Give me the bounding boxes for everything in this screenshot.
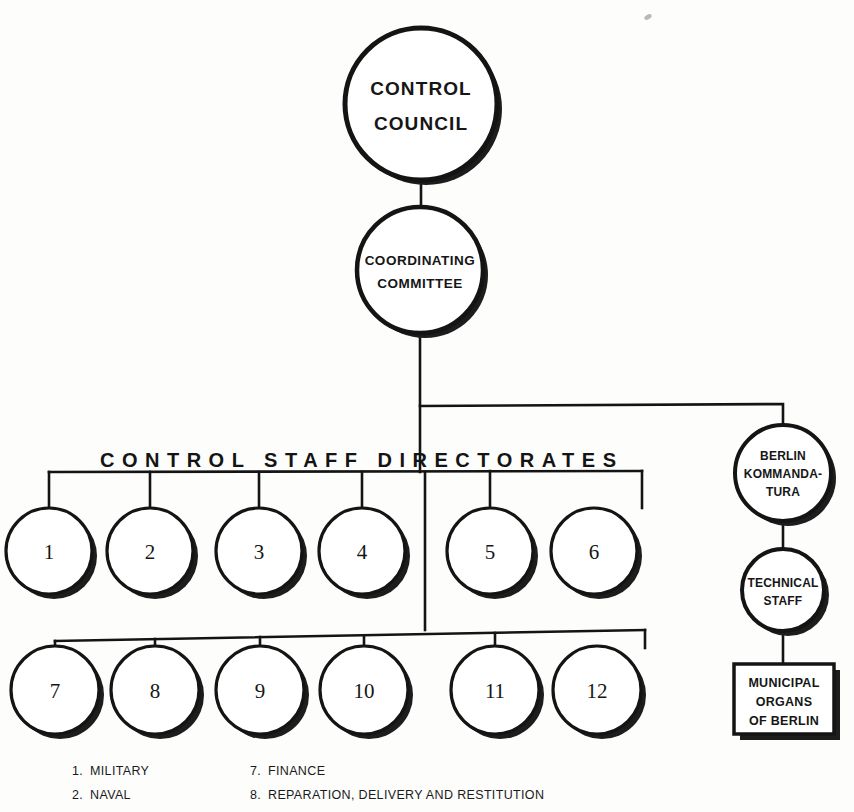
directorate-circle-10[interactable]: 10 (320, 646, 413, 739)
legend-item-7: 7. FINANCE (250, 764, 325, 778)
legend-item-8: 8. REPARATION, DELIVERY AND RESTITUTION (250, 788, 544, 802)
directorates-row-2: 7 8 9 10 11 12 (11, 646, 646, 739)
directorate-circle-9[interactable]: 9 (216, 646, 309, 739)
directorate-2-number: 2 (145, 540, 156, 564)
municipal-organs-label-line-2: ORGANS (756, 695, 813, 709)
directorate-circle-6[interactable]: 6 (551, 508, 642, 599)
legend-item-8-number: 8. (250, 788, 261, 802)
directorate-3-number: 3 (254, 540, 265, 564)
section-heading-control-staff-directorates: CONTROL STAFF DIRECTORATES (100, 449, 624, 471)
berlin-kommandatura-label-line-2: KOMMANDA- (744, 467, 822, 481)
control-council-label-line-1: CONTROL (370, 78, 472, 99)
municipal-organs-label-line-1: MUNICIPAL (748, 676, 819, 690)
legend-item-1: 1. MILITARY (72, 764, 150, 778)
directorate-5-number: 5 (485, 540, 496, 564)
directorate-7-number: 7 (50, 679, 61, 703)
node-berlin-kommandatura[interactable]: BERLIN KOMMANDA- TURA (735, 425, 836, 526)
directorate-circle-8[interactable]: 8 (111, 646, 204, 739)
legend-item-2: 2. NAVAL (72, 788, 131, 802)
node-municipal-organs[interactable]: MUNICIPAL ORGANS OF BERLIN (734, 664, 840, 740)
connector-row1-bus (49, 471, 642, 472)
directorate-6-number: 6 (589, 540, 600, 564)
legend-item-1-number: 1. (72, 764, 83, 778)
technical-staff-circle (742, 549, 824, 631)
legend-item-7-label: FINANCE (268, 764, 325, 778)
directorate-circle-4[interactable]: 4 (319, 508, 410, 599)
coordinating-committee-label-line-1: COORDINATING (365, 253, 476, 268)
municipal-organs-label-line-3: OF BERLIN (749, 714, 819, 728)
legend-item-2-number: 2. (72, 788, 83, 802)
control-council-circle (345, 28, 497, 180)
technical-staff-label-line-1: TECHNICAL (747, 576, 818, 590)
org-chart-canvas: CONTROL COUNCIL COORDINATING COMMITTEE B… (0, 0, 854, 812)
directorate-12-number: 12 (587, 679, 608, 703)
legend-item-8-label: REPARATION, DELIVERY AND RESTITUTION (268, 788, 544, 802)
legend-item-1-label: MILITARY (90, 764, 150, 778)
legend-item-7-number: 7. (250, 764, 261, 778)
berlin-kommandatura-label-line-1: BERLIN (760, 449, 806, 463)
control-council-label-line-2: COUNCIL (374, 113, 468, 134)
directorate-1-number: 1 (44, 540, 55, 564)
node-coordinating-committee[interactable]: COORDINATING COMMITTEE (357, 207, 488, 338)
coordinating-committee-label-line-2: COMMITTEE (377, 276, 463, 291)
directorate-circle-2[interactable]: 2 (107, 508, 198, 599)
legend: 1. MILITARY 2. NAVAL 7. FINANCE 8. REPAR… (72, 764, 544, 802)
node-control-council[interactable]: CONTROL COUNCIL (345, 28, 502, 185)
technical-staff-label-line-2: STAFF (764, 594, 803, 608)
directorate-circle-7[interactable]: 7 (11, 646, 104, 739)
directorate-9-number: 9 (255, 679, 266, 703)
connector-row2-bus (55, 630, 645, 641)
directorate-circle-3[interactable]: 3 (216, 508, 307, 599)
directorate-11-number: 11 (485, 679, 505, 703)
coordinating-committee-circle (357, 207, 483, 333)
directorates-row-1: 1 2 3 4 5 6 (6, 508, 642, 599)
scan-speck (643, 13, 652, 21)
directorate-circle-12[interactable]: 12 (553, 646, 646, 739)
node-technical-staff[interactable]: TECHNICAL STAFF (742, 549, 829, 636)
directorate-circle-5[interactable]: 5 (447, 508, 538, 599)
directorate-circle-1[interactable]: 1 (6, 508, 97, 599)
directorate-circle-11[interactable]: 11 (451, 646, 544, 739)
directorate-10-number: 10 (354, 679, 375, 703)
legend-item-2-label: NAVAL (90, 788, 131, 802)
directorate-4-number: 4 (357, 540, 368, 564)
connector-committee-to-kommandatura (420, 404, 783, 425)
berlin-kommandatura-label-line-3: TURA (766, 485, 800, 499)
directorate-8-number: 8 (150, 679, 161, 703)
